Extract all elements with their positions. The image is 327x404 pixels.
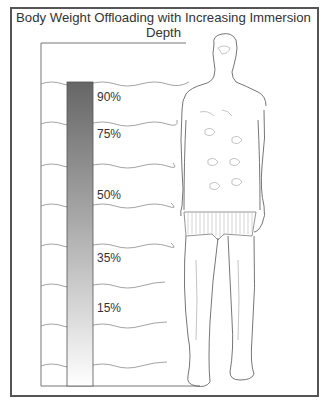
offload-gradient-bar (67, 82, 93, 386)
label-50: 50% (97, 188, 121, 202)
label-90: 90% (97, 90, 121, 104)
label-35: 35% (97, 251, 121, 265)
immersion-diagram (0, 0, 327, 404)
label-75: 75% (97, 127, 121, 141)
shorts-pattern (188, 213, 252, 238)
label-15: 15% (97, 301, 121, 315)
human-figure (181, 34, 266, 387)
water-depth-lines (41, 82, 189, 368)
figure-shading (196, 46, 242, 340)
